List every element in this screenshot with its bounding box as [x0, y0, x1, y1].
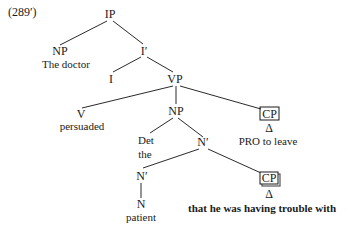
cp-upper-text: PRO to leave — [239, 135, 298, 147]
edge-vp-cp — [180, 86, 261, 109]
node-i-bar: I′ — [141, 44, 148, 58]
det-text: the — [138, 148, 152, 160]
cp-upper-delta: Δ — [265, 121, 273, 135]
node-n-bar-upper: N′ — [197, 135, 209, 149]
node-v: V — [77, 107, 86, 121]
edge-np-det — [150, 118, 173, 133]
edge-nbar-cp — [208, 149, 261, 173]
node-cp-upper: CP — [262, 107, 277, 121]
edge-ip-ibar — [113, 21, 143, 44]
node-ip: IP — [105, 7, 116, 21]
edge-ibar-i — [113, 57, 141, 72]
edge-ip-np — [60, 21, 107, 45]
node-det: Det — [138, 134, 154, 146]
node-n: N — [137, 197, 146, 211]
syntax-tree: (289′) IP NP The doctor I′ I VP V persua… — [0, 0, 349, 236]
node-n-bar-lower: N′ — [136, 169, 148, 183]
cp-lower-delta: Δ — [265, 187, 273, 201]
v-text: persuaded — [60, 120, 105, 132]
node-np-object: NP — [168, 104, 184, 118]
example-number: (289′) — [8, 5, 37, 19]
cp-lower-text: that he was having trouble with — [188, 202, 336, 214]
node-cp-lower: CP — [262, 171, 277, 185]
node-np-subject: NP — [52, 44, 68, 58]
tree-edges — [60, 21, 261, 198]
np-subject-text: The doctor — [42, 58, 90, 70]
edge-ibar-vp — [147, 57, 173, 72]
n-text: patient — [126, 211, 156, 223]
node-vp: VP — [167, 72, 183, 86]
node-i: I — [109, 72, 113, 86]
edge-vp-v — [82, 86, 173, 108]
